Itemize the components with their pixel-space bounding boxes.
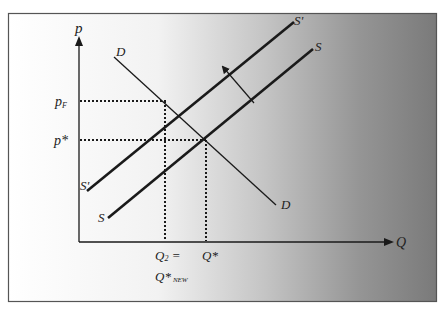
- quantity-qstar-label: Q*: [202, 248, 218, 263]
- price-pf-main: p: [54, 94, 62, 109]
- supply-new-label-bottom: S': [80, 178, 90, 193]
- y-axis-label: p: [74, 20, 83, 36]
- q2-eq: =: [168, 248, 180, 263]
- supply-new-label-top: S': [294, 13, 304, 28]
- supply-demand-diagram: p Q S' S' S S D D pF p* Q2 = Q*NEW Q*: [0, 0, 445, 315]
- price-pstar-label: p*: [53, 133, 68, 148]
- quantity-q2-label: Q2 =: [155, 248, 180, 263]
- qnew-main: Q*: [155, 269, 171, 284]
- diagram-frame: [9, 14, 437, 302]
- price-pf-sub: F: [61, 101, 67, 110]
- qnew-sub: NEW: [172, 276, 189, 284]
- demand-label-top: D: [115, 44, 126, 59]
- demand-label-bottom: D: [280, 197, 291, 212]
- supply-label-bottom: S: [98, 210, 105, 225]
- supply-label-top: S: [315, 39, 322, 54]
- x-axis-label: Q: [396, 235, 406, 250]
